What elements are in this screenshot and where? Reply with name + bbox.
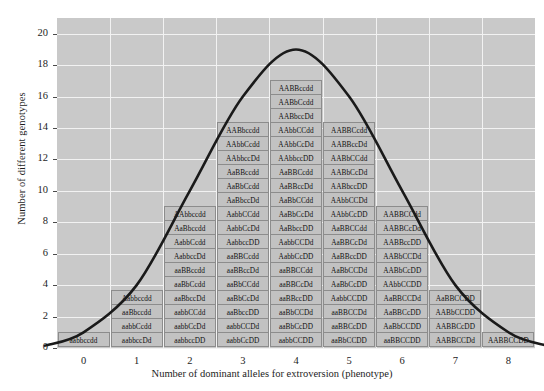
y-axis-tick-mark <box>53 159 57 160</box>
genotype-cell: aabbCcdd <box>111 318 163 333</box>
genotype-cell: aaBBccdd <box>164 262 216 277</box>
genotype-cell: AaBBccDd <box>270 178 322 193</box>
genotype-cell: AabbCcDd <box>217 220 269 235</box>
genotype-cell: aabbccDD <box>164 332 216 347</box>
genotype-cell: aaBbccdd <box>111 304 163 319</box>
genotype-cell: AAbbccdd <box>164 206 216 221</box>
y-axis-tick-mark <box>53 254 57 255</box>
genotype-cell: AAbbCcDd <box>270 136 322 151</box>
genotype-cell: AABbccDd <box>270 108 322 123</box>
y-axis-tick-mark <box>53 34 57 35</box>
genotype-cell: AAbbCcdd <box>217 136 269 151</box>
gridline-horizontal <box>57 65 535 66</box>
x-axis-tick-label: 1 <box>117 355 157 366</box>
genotype-cell: aaBBccDD <box>270 290 322 305</box>
y-axis-tick-label: 4 <box>8 278 48 289</box>
genotype-cell: AaBBCCdd <box>323 220 375 235</box>
genotype-cell: AaBBCcdd <box>270 164 322 179</box>
genotype-cell: AABbCcDD <box>376 262 428 277</box>
genotype-cell: AaBBccDD <box>323 248 375 263</box>
genotype-cell: aaBbCCDD <box>323 332 375 347</box>
genotype-cell: AABBCcDd <box>376 220 428 235</box>
y-axis-tick-mark <box>53 317 57 318</box>
genotype-column: AABBCcddAABBccDdAABbCCddAABbCcDdAABbccDD… <box>323 123 375 347</box>
y-axis-tick-mark <box>53 128 57 129</box>
genotype-column: AABbccddAAbbCcddAAbbccDdAaBBccddAaBbCcdd… <box>217 123 269 347</box>
genotype-cell: aaBBCcDD <box>323 318 375 333</box>
genotype-cell: aaBbccDD <box>217 304 269 319</box>
genotype-cell: AabbccDd <box>164 248 216 263</box>
x-axis-tick-label: 7 <box>435 355 475 366</box>
genotype-cell: AAbbCCdd <box>270 122 322 137</box>
y-axis-tick-label: 6 <box>8 247 48 258</box>
y-axis-tick-mark <box>53 65 57 66</box>
genotype-column: AAbbccddAaBbccddAabbCcddAabbccDdaaBBccdd… <box>164 207 216 347</box>
genotype-cell: aaBBCCDd <box>323 304 375 319</box>
genotype-cell: aaBbCCdd <box>217 276 269 291</box>
y-axis-tick-label: 20 <box>8 27 48 38</box>
genotype-cell: AABBccdd <box>270 80 322 95</box>
genotype-cell: AAbbCCDd <box>323 192 375 207</box>
genotype-cell: aaBBCcDd <box>270 276 322 291</box>
x-axis-tick-label: 8 <box>488 355 528 366</box>
genotype-cell: aaBBCCDD <box>376 332 428 347</box>
genotype-cell: AabbccDD <box>217 234 269 249</box>
genotype-cell: AABbCcdd <box>270 94 322 109</box>
genotype-cell: aabbccDd <box>111 332 163 347</box>
genotype-cell: AABbCCDd <box>376 248 428 263</box>
genotype-cell: aabbCcDD <box>217 332 269 347</box>
genotype-cell: AaBBccdd <box>217 164 269 179</box>
x-axis-tick-label: 5 <box>329 355 369 366</box>
genotype-cell: AABbCcDd <box>323 164 375 179</box>
gridline-horizontal <box>57 34 535 35</box>
genotype-cell: AABBCcDD <box>429 318 481 333</box>
genotype-cell: AaBbCcDD <box>323 276 375 291</box>
genotype-cell: aabbCCDd <box>217 318 269 333</box>
genotype-cell: aaBBccDd <box>217 262 269 277</box>
y-axis-tick-label: 10 <box>8 184 48 195</box>
y-axis-tick-label: 0 <box>8 341 48 352</box>
genotype-column: AaBBCCDDAABbCCDDAABBCcDDAABBCCDd <box>429 291 481 347</box>
genotype-cell: aabbCcDd <box>164 318 216 333</box>
genotype-cell: AABbccDD <box>323 178 375 193</box>
genotype-cell: AABBccDd <box>323 136 375 151</box>
y-axis-tick-mark <box>53 97 57 98</box>
genotype-cell: aaBbCcDD <box>270 318 322 333</box>
genotype-column: AABBCCddAABBCcDdAABBccDDAABbCCDdAABbCcDD… <box>376 207 428 347</box>
genotype-cell: AaBBCCDd <box>376 290 428 305</box>
genotype-cell: aaBbccDd <box>164 290 216 305</box>
genotype-cell: AABBccDD <box>376 234 428 249</box>
y-axis-tick-mark <box>53 348 57 349</box>
genotype-cell: AABBCCdd <box>376 206 428 221</box>
x-axis-tick-label: 0 <box>64 355 104 366</box>
y-axis-tick-mark <box>53 222 57 223</box>
genotype-cell: AABBCCDD <box>482 332 534 347</box>
genotype-cell: AabbCcDD <box>270 248 322 263</box>
genotype-cell: AAbbccDD <box>270 150 322 165</box>
genotype-cell: AAbbccDd <box>217 150 269 165</box>
genotype-cell: aabbCCDD <box>270 332 322 347</box>
gridline-horizontal <box>57 348 535 349</box>
genotype-cell: aabbCCdd <box>164 304 216 319</box>
x-axis-tick-label: 2 <box>170 355 210 366</box>
genotype-cell: AabbCCDD <box>323 290 375 305</box>
y-axis-tick-label: 2 <box>8 310 48 321</box>
genotype-column: aabbccdd <box>58 333 110 347</box>
genotype-cell: AaBbCCDd <box>323 262 375 277</box>
genotype-cell: AABbccdd <box>217 122 269 137</box>
genotype-cell: AAbbCCDD <box>376 276 428 291</box>
genotype-cell: aaBBCcdd <box>217 248 269 263</box>
genotype-cell: AaBbCCDD <box>376 318 428 333</box>
y-axis-tick-label: 14 <box>8 121 48 132</box>
genotype-cell: AaBbccDD <box>270 220 322 235</box>
genotype-cell: AabbCCdd <box>217 206 269 221</box>
genotype-cell: AaBbccdd <box>164 220 216 235</box>
genotype-distribution-chart: Number of different genotypes 0246810121… <box>0 0 544 391</box>
genotype-cell: AABbCCDD <box>429 304 481 319</box>
genotype-cell: AABBCCDd <box>429 332 481 347</box>
genotype-cell: AaBbCcdd <box>217 178 269 193</box>
genotype-column: AabbccddaaBbccddaabbCcddaabbccDd <box>111 291 163 347</box>
x-axis-title: Number of dominant alleles for extrovers… <box>0 368 544 379</box>
genotype-cell: Aabbccdd <box>111 290 163 305</box>
y-axis-tick-label: 12 <box>8 152 48 163</box>
